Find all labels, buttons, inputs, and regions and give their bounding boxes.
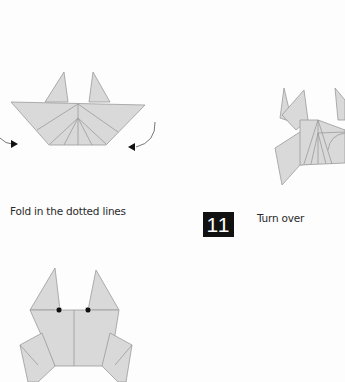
- step-10-instruction: Fold in the dotted lines: [10, 205, 126, 217]
- step-11-instruction: Turn over: [257, 212, 304, 224]
- crab-eye-right-icon: [85, 307, 91, 313]
- crab-figure: [20, 268, 132, 382]
- step-10-fold-diagram: [0, 0, 345, 382]
- boat-fold-figure: [11, 72, 145, 145]
- fold-arrow-left-icon: [0, 138, 18, 148]
- crab-eye-left-icon: [56, 307, 62, 313]
- turn-over-figure: [275, 88, 345, 185]
- fold-arrow-right-icon: [128, 122, 155, 151]
- step-number-badge: 11: [203, 212, 234, 237]
